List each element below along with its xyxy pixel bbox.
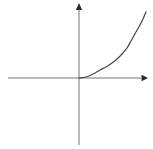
figure-canvas — [0, 0, 153, 149]
figure-background — [0, 0, 153, 149]
coordinate-plane-svg — [0, 0, 153, 149]
